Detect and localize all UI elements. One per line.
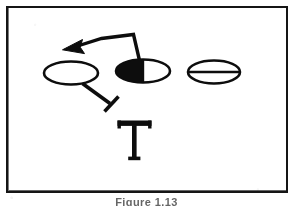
scanned-figure-page: Figure 1.13 bbox=[0, 0, 293, 206]
node-left-ellipse bbox=[44, 62, 98, 85]
node-right-ellipse bbox=[188, 61, 240, 84]
diagram-vector-layer bbox=[0, 0, 293, 206]
glyph-letter-t bbox=[118, 121, 152, 161]
connector-arrow bbox=[63, 35, 140, 61]
connector-inhibition bbox=[83, 84, 119, 112]
figure-caption-text: Figure 1.13 bbox=[0, 197, 293, 206]
node-middle-ellipse bbox=[116, 59, 170, 83]
figure-caption: Figure 1.13 bbox=[0, 197, 293, 206]
t-bar-icon bbox=[105, 97, 119, 112]
